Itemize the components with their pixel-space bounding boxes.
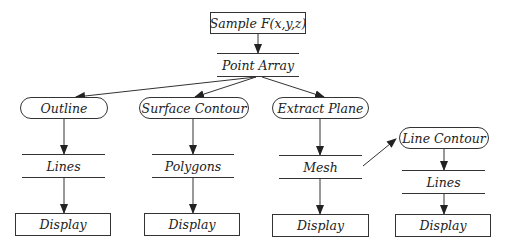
edge-pointarray-to-extract — [262, 77, 324, 97]
extract-plane-node: Extract Plane — [272, 97, 369, 119]
edge-pointarray-to-outline — [76, 77, 256, 97]
sample-node: Sample F(x,y,z) — [210, 12, 306, 34]
display-node-4: Display — [395, 214, 491, 237]
display-node-3: Display — [272, 214, 369, 237]
lines-node-4: Lines — [402, 170, 485, 194]
lines-node-1: Lines — [22, 154, 105, 178]
edge-layer — [0, 0, 509, 249]
edge-mesh-to-linecontour — [363, 139, 396, 166]
display-node-1: Display — [15, 213, 111, 236]
display-node-2: Display — [144, 213, 240, 236]
surface-contour-node: Surface Contour — [139, 97, 249, 119]
outline-node: Outline — [20, 97, 108, 119]
mesh-node: Mesh — [279, 155, 362, 179]
point-array-node: Point Array — [217, 53, 299, 77]
line-contour-node: Line Contour — [399, 127, 489, 149]
polygons-node: Polygons — [152, 154, 234, 178]
